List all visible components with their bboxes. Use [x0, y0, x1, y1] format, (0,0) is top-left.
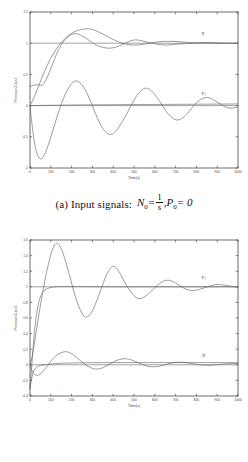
chart-a-xtick-label: 400 [110, 170, 116, 174]
chart-b-yaxis-title: Process Output [14, 306, 18, 331]
chart-b-ytick-label: -0.4 [22, 394, 28, 398]
chart-a-xtick-label: 700 [173, 170, 179, 174]
figure-container: 01002003004005006007008009001000-1-0.500… [0, 0, 248, 462]
chart-b-curve-label-N: N [201, 353, 206, 358]
caption-a-prefix: (a) Input signals: [56, 198, 132, 210]
chart-a-series-P1-response-oscillatory [30, 81, 238, 159]
plot-a-wrapper: 01002003004005006007008009001000-1-0.500… [0, 0, 248, 192]
chart-b-ytick-label: 0.2 [23, 348, 28, 352]
chart-b-curve-label-P1: P1 [201, 275, 207, 281]
plot-b-wrapper: 01002003004005006007008009001000-0.4-0.2… [0, 228, 248, 420]
chart-b-xtick-label: 1000 [234, 398, 242, 402]
chart-a-xtick-label: 100 [48, 170, 54, 174]
chart-b-xtick-label: 100 [48, 398, 54, 402]
chart-b-ytick-label: 0.4 [23, 332, 28, 336]
chart-a-xtick-label: 800 [194, 170, 200, 174]
chart-b-xtick-label: 300 [90, 398, 96, 402]
chart-a-xtick-label: 200 [69, 170, 75, 174]
chart-b-xtick-label: 800 [194, 398, 200, 402]
chart-a-curve-label-P1: P1 [201, 91, 207, 97]
chart-b-xtick-label: 500 [131, 398, 137, 402]
chart-a-xaxis-title: Time(s) [128, 176, 140, 180]
chart-a-ytick-label: 1 [26, 42, 28, 46]
caption-a-fraction: 1s [156, 193, 163, 212]
panel-a: 01002003004005006007008009001000-1-0.500… [0, 0, 248, 231]
chart-b-xtick-label: 400 [110, 398, 116, 402]
chart-b-xtick-label: 600 [152, 398, 158, 402]
chart-a-yaxis-title: Process Output [14, 78, 18, 103]
chart-b-ytick-label: 1.6 [23, 238, 28, 242]
caption-a-numerator: 1 [156, 193, 163, 202]
chart-a-series-N-response-secondary [30, 34, 238, 87]
chart-a-series-N-response-overshoot [30, 29, 238, 106]
chart-a-ytick-label: 0 [26, 104, 28, 108]
chart-b-ytick-label: 0 [26, 363, 28, 367]
chart-b-ytick-label: 0.6 [23, 316, 28, 320]
chart-a-curve-label-N: N [200, 31, 205, 36]
caption-a-denominator: s [156, 202, 163, 212]
chart-b-ytick-label: 1.2 [23, 270, 28, 274]
chart-b-ytick-label: 1.4 [23, 254, 28, 258]
chart-a-xtick-label: 1000 [234, 170, 242, 174]
chart-b-xtick-label: 0 [29, 398, 31, 402]
caption-a-eq1: = [148, 196, 155, 208]
chart-a-ytick-label: 0.5 [23, 73, 28, 77]
panel-b: 01002003004005006007008009001000-0.4-0.2… [0, 228, 248, 462]
chart-a-ytick-label: -0.5 [22, 135, 28, 139]
chart-b: 01002003004005006007008009001000-0.4-0.2… [0, 228, 248, 420]
chart-b-xaxis-title: Time(s) [128, 404, 140, 408]
chart-b-xtick-label: 700 [173, 398, 179, 402]
chart-a-xtick-label: 0 [29, 170, 31, 174]
chart-a-ytick-label: -1 [25, 166, 28, 170]
chart-b-series-P1-response-large-oscillation [30, 243, 238, 365]
chart-b-series-N-response-smooth [30, 363, 238, 389]
caption-a-math: N0=1s,P0= 0 [137, 194, 192, 213]
chart-a: 01002003004005006007008009001000-1-0.500… [0, 0, 248, 192]
chart-a-ytick-label: 1.5 [23, 10, 28, 14]
chart-b-ytick-label: 0.8 [23, 301, 28, 305]
chart-b-ytick-label: 1 [26, 285, 28, 289]
chart-b-xtick-label: 900 [214, 398, 220, 402]
chart-b-ytick-label: -0.2 [22, 379, 28, 383]
caption-a: (a) Input signals:N0=1s,P0= 0 [0, 194, 248, 213]
chart-a-xtick-label: 500 [131, 170, 137, 174]
chart-b-series-P1-response-fast-settle [30, 287, 238, 389]
chart-a-xtick-label: 300 [90, 170, 96, 174]
caption-a-eq2: = 0 [177, 196, 193, 208]
chart-a-xtick-label: 600 [152, 170, 158, 174]
chart-b-xtick-label: 200 [69, 398, 75, 402]
chart-a-xtick-label: 900 [214, 170, 220, 174]
